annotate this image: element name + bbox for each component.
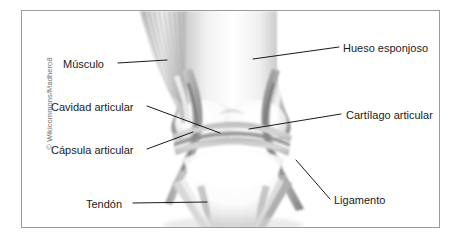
label-ligamento: Ligamento — [334, 194, 385, 206]
label-hueso-esponjoso: Hueso esponjoso — [343, 42, 428, 54]
label-cartilago-articular: Cartílago articular — [346, 109, 433, 121]
muscle-fibers — [140, 11, 190, 123]
label-capsula-articular: Cápsula articular — [51, 144, 134, 156]
label-tendon: Tendón — [86, 198, 122, 210]
label-cavidad-articular: Cavidad articular — [51, 101, 134, 113]
figure-frame: © Wikicommons/Madhero8 — [21, 10, 440, 228]
base-shadow — [163, 217, 303, 227]
figure-root: © Wikicommons/Madhero8 — [0, 0, 461, 240]
label-musculo: Músculo — [63, 58, 104, 70]
